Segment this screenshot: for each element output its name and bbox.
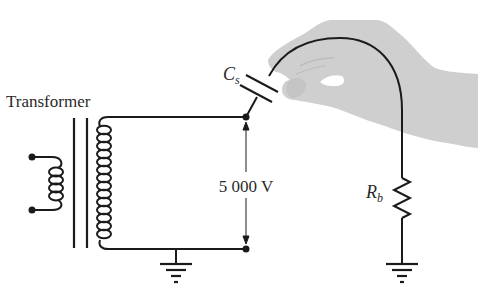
circuit-diagram: Transformer xyxy=(0,0,498,302)
transformer-core xyxy=(74,118,87,248)
transformer-label: Transformer xyxy=(6,92,91,111)
bottom-node xyxy=(243,246,250,253)
primary-coil xyxy=(29,154,64,214)
resistor-rb xyxy=(394,178,410,218)
hand-illustration xyxy=(268,20,478,148)
voltage-label: 5 000 V xyxy=(219,177,274,196)
capacitor-label: Cs xyxy=(223,64,240,87)
top-node xyxy=(243,114,250,121)
capacitor-cs xyxy=(240,75,278,102)
ground-icon xyxy=(160,264,192,282)
resistor-label: Rb xyxy=(365,182,383,205)
secondary-coil xyxy=(97,117,111,249)
ground-icon xyxy=(386,264,418,282)
